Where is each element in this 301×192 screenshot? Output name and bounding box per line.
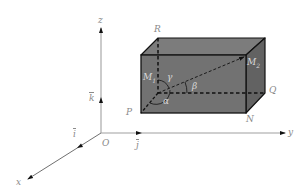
k-vector-arrow xyxy=(99,97,103,103)
i-vector-label: i xyxy=(73,130,76,139)
x-axis-label: x xyxy=(16,178,21,187)
point-r-label: R xyxy=(154,25,161,34)
angle-beta-label: β xyxy=(192,82,197,91)
rectangular-box xyxy=(141,38,265,113)
j-vector-label: j xyxy=(136,141,139,150)
point-m2-label: M2 xyxy=(247,58,260,69)
origin-label: O xyxy=(102,139,109,148)
angle-alpha-label: α xyxy=(163,97,169,106)
k-vector-label: k xyxy=(89,94,94,103)
y-axis-label: y xyxy=(288,128,293,137)
point-p-label: P xyxy=(126,108,132,117)
point-q-label: Q xyxy=(269,86,276,95)
point-n-label: N xyxy=(246,115,254,124)
diagram-canvas xyxy=(0,0,301,192)
x-axis xyxy=(28,133,101,179)
point-m1-label: M1 xyxy=(143,73,156,84)
angle-gamma-label: γ xyxy=(167,73,172,82)
z-axis-label: z xyxy=(98,16,103,25)
i-vector-arrow xyxy=(77,144,83,149)
j-vector-arrow xyxy=(136,131,142,135)
box-top-face xyxy=(141,38,265,55)
